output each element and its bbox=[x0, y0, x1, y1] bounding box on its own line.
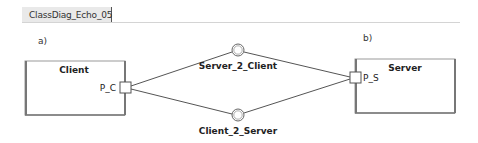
interface-client-2-server-label: Client_2_Server bbox=[199, 126, 278, 136]
client-port-label: P_C bbox=[100, 83, 116, 93]
connector-pc-to-c2s[interactable] bbox=[131, 89, 232, 114]
server-port-label: P_S bbox=[363, 73, 379, 83]
server-class[interactable]: Server P_S bbox=[355, 59, 455, 113]
interface-server-2-client-label: Server_2_Client bbox=[199, 61, 278, 71]
client-port-p-c[interactable] bbox=[120, 82, 131, 93]
class-diagram-canvas: Client P_C Server P_S Server_2_Client Cl… bbox=[0, 0, 478, 143]
server-class-name: Server bbox=[388, 63, 422, 73]
client-class-name: Client bbox=[59, 65, 89, 75]
connector-c2s-to-ps[interactable] bbox=[244, 79, 350, 113]
server-port-p-s[interactable] bbox=[350, 72, 361, 83]
interface-client-2-server[interactable]: Client_2_Server bbox=[199, 109, 278, 136]
client-class[interactable]: Client P_C bbox=[25, 61, 125, 115]
